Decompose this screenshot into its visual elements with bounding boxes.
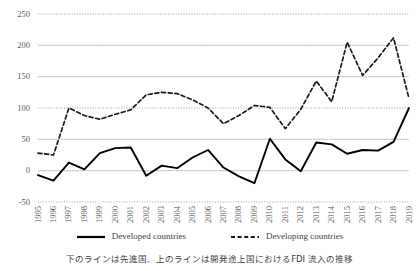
x-axis-tick-label: 2015 — [343, 206, 352, 223]
legend-solid-swatch — [76, 233, 106, 241]
x-axis-tick-label: 2001 — [126, 206, 135, 223]
x-axis-tick-label: 2014 — [327, 206, 336, 223]
fdi-inflow-line-chart: Developed countries Developing countries… — [0, 0, 419, 271]
chart-caption: 下のラインは先進国、上のラインは開発途上国におけるFDI 流入の推移 — [0, 252, 419, 264]
legend-item-developing[interactable]: Developing countries — [230, 232, 343, 241]
x-axis-tick-label: 2016 — [358, 206, 367, 223]
legend-item-developed[interactable]: Developed countries — [76, 232, 186, 241]
x-axis-tick-label: 1998 — [80, 206, 89, 223]
x-axis-tick-label: 2019 — [405, 206, 414, 223]
x-axis-tick-label: 2018 — [389, 206, 398, 223]
x-axis-tick-label: 2017 — [374, 206, 383, 223]
series-line-developing-countries — [38, 38, 409, 155]
x-axis-tick-label: 2010 — [265, 206, 274, 223]
x-axis-tick-label: 2005 — [188, 206, 197, 223]
x-axis-tick-label: 2003 — [157, 206, 166, 223]
y-axis-tick-label: 50 — [6, 135, 30, 144]
y-axis-tick-label: 0 — [6, 166, 30, 175]
series-line-developed-countries — [38, 108, 409, 183]
y-axis-tick-label: 200 — [6, 41, 30, 50]
x-axis-tick-label: 2006 — [204, 206, 213, 223]
legend-label-developed: Developed countries — [112, 232, 186, 241]
y-axis-tick-label: 250 — [6, 10, 30, 19]
x-axis-tick-label: 2013 — [312, 206, 321, 223]
x-axis-tick-label: 2009 — [250, 206, 259, 223]
x-axis-tick-label: 1996 — [49, 206, 58, 223]
x-axis-tick-label: 2000 — [111, 206, 120, 223]
y-axis-tick-label: 150 — [6, 72, 30, 81]
x-axis-tick-label: 1995 — [34, 206, 43, 223]
x-axis-tick-label: 1999 — [95, 206, 104, 223]
x-axis-tick-label: 1997 — [64, 206, 73, 223]
y-axis-tick-label: -50 — [6, 198, 30, 207]
legend-label-developing: Developing countries — [266, 232, 343, 241]
y-axis-tick-label: 100 — [6, 104, 30, 113]
chart-legend: Developed countries Developing countries — [0, 232, 419, 241]
x-axis-tick-label: 2002 — [142, 206, 151, 223]
x-axis-tick-label: 2008 — [234, 206, 243, 223]
legend-dashed-swatch — [230, 233, 260, 241]
x-axis-tick-label: 2007 — [219, 206, 228, 223]
x-axis-tick-label: 2004 — [173, 206, 182, 223]
x-axis-tick-label: 2011 — [281, 206, 290, 223]
x-axis-tick-label: 2012 — [296, 206, 305, 223]
chart-plot-area — [0, 0, 419, 271]
